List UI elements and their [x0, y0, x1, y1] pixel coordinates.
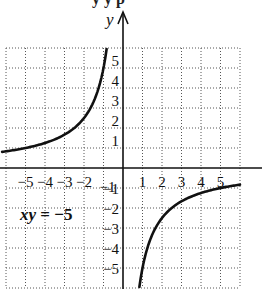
x-tick-label: 2: [158, 174, 166, 190]
equation-label: xy = −5: [19, 205, 72, 224]
y-tick-label: 3: [112, 93, 120, 109]
hyperbola-graph: y y p y −5−4−3−2−112345 54321−1−2−3−4−5 …: [0, 0, 262, 289]
y-tick-label: −3: [103, 221, 119, 237]
equation-rhs: = −5: [36, 205, 72, 224]
y-tick-label: −2: [103, 201, 119, 217]
x-tick-label: −2: [76, 174, 92, 190]
x-tick-label: 4: [197, 174, 205, 190]
x-tick-label: −5: [18, 174, 34, 190]
y-tick-label: 4: [112, 73, 120, 89]
x-tick-label: −3: [57, 174, 73, 190]
y-tick-label: −5: [103, 261, 119, 277]
x-tick-label: −4: [37, 174, 53, 190]
curve-right-branch: [139, 185, 240, 287]
x-tick-labels: −5−4−3−2−112345: [18, 174, 225, 195]
cropped-title-fragment: y y p: [92, 0, 125, 8]
equation-lhs: xy: [19, 205, 37, 224]
y-axis-label: y: [104, 10, 114, 29]
y-tick-label: 5: [112, 53, 120, 69]
x-tick-label: 3: [178, 174, 186, 190]
curve-left-branch: [2, 49, 107, 152]
y-tick-label: 2: [112, 113, 120, 129]
y-tick-label: −1: [103, 181, 119, 197]
y-tick-label: −4: [103, 241, 119, 257]
y-tick-labels: 54321−1−2−3−4−5: [103, 53, 119, 277]
y-tick-label: 1: [112, 133, 120, 149]
x-tick-label: 1: [139, 174, 147, 190]
